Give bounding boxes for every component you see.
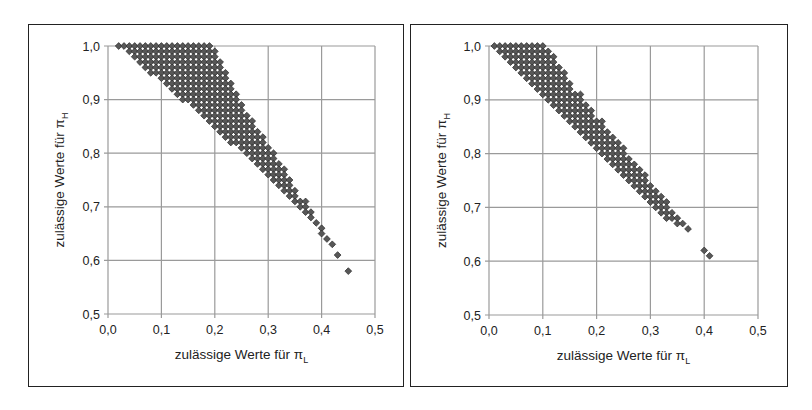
- x-tick-label: 0,4: [696, 324, 713, 338]
- chart-panel-right: 0,00,10,20,30,40,50,50,60,70,80,91,0zulä…: [410, 24, 788, 387]
- diamond-marker: [685, 226, 692, 233]
- diamond-marker: [334, 252, 341, 259]
- y-tick-label: 1,0: [464, 40, 481, 54]
- diamond-marker: [313, 219, 320, 226]
- diamond-marker: [701, 247, 708, 254]
- x-tick-label: 0,5: [366, 323, 383, 337]
- y-axis-title: zulässige Werte für πH: [52, 113, 70, 248]
- x-tick-label: 0,3: [260, 323, 277, 337]
- y-tick-label: 0,7: [83, 200, 100, 214]
- y-tick-label: 1,0: [83, 40, 100, 54]
- y-axis-title: zulässige Werte für πH: [434, 113, 452, 248]
- y-tick-label: 0,8: [464, 147, 481, 161]
- x-tick-label: 0,4: [313, 323, 330, 337]
- x-tick-label: 0,5: [749, 324, 766, 338]
- chart-panel-left: 0,00,10,20,30,40,50,50,60,70,80,91,0zulä…: [28, 24, 404, 387]
- y-tick-label: 0,5: [83, 308, 100, 322]
- diamond-marker: [318, 230, 325, 237]
- scatter-plot-left: 0,00,10,20,30,40,50,50,60,70,80,91,0zulä…: [29, 25, 405, 388]
- data-points: [115, 43, 351, 275]
- y-tick-label: 0,5: [464, 309, 481, 323]
- scatter-plot-right: 0,00,10,20,30,40,50,50,60,70,80,91,0zulä…: [411, 25, 789, 388]
- diamond-marker: [345, 268, 352, 275]
- x-tick-label: 0,3: [642, 324, 659, 338]
- diamond-marker: [308, 214, 315, 221]
- x-tick-label: 0,2: [206, 323, 223, 337]
- grid: [485, 46, 758, 319]
- y-tick-label: 0,7: [464, 201, 481, 215]
- y-tick-label: 0,8: [83, 147, 100, 161]
- x-axis-title: zulässige Werte für πL: [557, 348, 690, 366]
- grid: [104, 46, 375, 318]
- diamond-marker: [329, 241, 336, 248]
- data-points: [491, 43, 713, 260]
- x-axis-title: zulässige Werte für πL: [175, 347, 308, 365]
- x-tick-label: 0,1: [153, 323, 170, 337]
- y-tick-label: 0,6: [83, 254, 100, 268]
- x-tick-label: 0,1: [534, 324, 551, 338]
- y-tick-label: 0,6: [464, 255, 481, 269]
- diamond-marker: [706, 252, 713, 259]
- x-tick-label: 0,0: [99, 323, 116, 337]
- diamond-marker: [324, 236, 331, 243]
- y-tick-label: 0,9: [464, 93, 481, 107]
- diamond-marker: [679, 220, 686, 227]
- y-tick-label: 0,9: [83, 93, 100, 107]
- x-tick-label: 0,0: [480, 324, 497, 338]
- x-tick-label: 0,2: [588, 324, 605, 338]
